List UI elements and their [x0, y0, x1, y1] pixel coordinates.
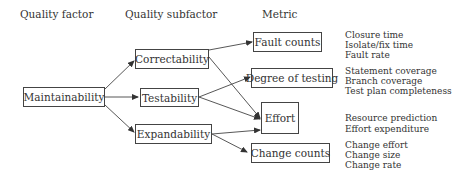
header-metric: Metric: [262, 8, 297, 20]
node-effort: Effort: [261, 102, 299, 134]
detail-item: Change rate: [345, 160, 408, 170]
detail-item: Effort expenditure: [345, 124, 437, 135]
node-label: Change counts: [251, 147, 330, 159]
node-correctability: Correctability: [135, 49, 209, 69]
detail-item: Statement coverage: [345, 66, 452, 76]
node-label: Effort: [265, 112, 296, 124]
node-change-counts: Change counts: [251, 143, 330, 163]
node-maintainability: Maintainability: [23, 87, 105, 107]
detail-item: Closure time: [345, 30, 413, 40]
node-label: Degree of testing: [246, 72, 339, 84]
fault-counts-details: Closure time Isolate/fix time Fault rate: [345, 30, 413, 60]
node-expandability: Expandability: [135, 124, 212, 144]
node-label: Fault counts: [255, 36, 321, 48]
change-counts-details: Change effort Change size Change rate: [345, 140, 408, 170]
detail-item: Change size: [345, 150, 408, 160]
detail-item: Fault rate: [345, 50, 413, 60]
node-label: Maintainability: [24, 91, 105, 103]
effort-details: Resource prediction Effort expenditure: [345, 113, 437, 135]
detail-item: Test plan completeness: [345, 86, 452, 96]
node-degree-of-testing: Degree of testing: [251, 68, 333, 88]
detail-item: Isolate/fix time: [345, 40, 413, 50]
detail-item: Resource prediction: [345, 113, 437, 124]
detail-item: Branch coverage: [345, 76, 452, 86]
detail-item: Change effort: [345, 140, 408, 150]
node-label: Correctability: [135, 53, 209, 65]
node-fault-counts: Fault counts: [253, 32, 322, 52]
header-quality-subfactor: Quality subfactor: [125, 8, 217, 20]
node-testability: Testability: [140, 88, 199, 107]
degree-of-testing-details: Statement coverage Branch coverage Test …: [345, 66, 452, 96]
node-label: Testability: [142, 92, 197, 104]
header-quality-factor: Quality factor: [20, 8, 93, 20]
node-label: Expandability: [137, 128, 210, 140]
